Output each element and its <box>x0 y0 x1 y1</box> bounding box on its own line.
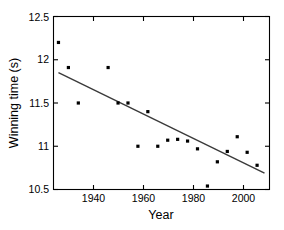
x-axis-ticks <box>94 17 244 190</box>
x-tick-label-1940: 1940 <box>82 192 106 204</box>
y-axis-ticks <box>54 17 270 190</box>
y-tick-label-11: 11 <box>38 140 49 152</box>
data-point <box>57 41 60 44</box>
y-axis-title: Winning time (s) <box>7 58 21 148</box>
data-point <box>77 101 80 104</box>
y-tick-label-10p5: 10.5 <box>29 183 50 195</box>
data-point <box>67 66 70 69</box>
data-point <box>146 110 149 113</box>
x-tick-labels: 1940 1960 1980 2000 <box>82 192 256 204</box>
x-tick-label-1980: 1980 <box>182 192 206 204</box>
x-tick-label-2000: 2000 <box>232 192 256 204</box>
data-point <box>216 160 219 163</box>
y-tick-labels: 10.5 11 11.5 12 12.5 <box>29 11 50 196</box>
y-tick-label-11p5: 11.5 <box>29 97 49 109</box>
data-point <box>126 101 129 104</box>
trendline <box>58 73 264 173</box>
data-points-group <box>57 41 259 188</box>
data-point <box>136 145 139 148</box>
data-point <box>236 135 239 138</box>
data-point <box>116 101 119 104</box>
chart-figure: 1940 1960 1980 2000 10.5 11 11.5 12 12.5… <box>0 0 284 230</box>
data-point <box>176 138 179 141</box>
data-point <box>196 147 199 150</box>
x-tick-label-1960: 1960 <box>132 192 156 204</box>
data-point <box>255 164 258 167</box>
y-tick-label-12: 12 <box>37 53 49 65</box>
plot-frame <box>54 17 270 190</box>
data-point <box>206 184 209 187</box>
data-point <box>166 139 169 142</box>
data-point <box>186 139 189 142</box>
data-point <box>156 145 159 148</box>
data-point <box>246 151 249 154</box>
x-axis-title: Year <box>148 208 173 222</box>
scatter-plot-svg: 1940 1960 1980 2000 10.5 11 11.5 12 12.5… <box>0 0 284 230</box>
y-tick-label-12p5: 12.5 <box>29 11 50 23</box>
data-point <box>226 150 229 153</box>
data-point <box>107 66 110 69</box>
